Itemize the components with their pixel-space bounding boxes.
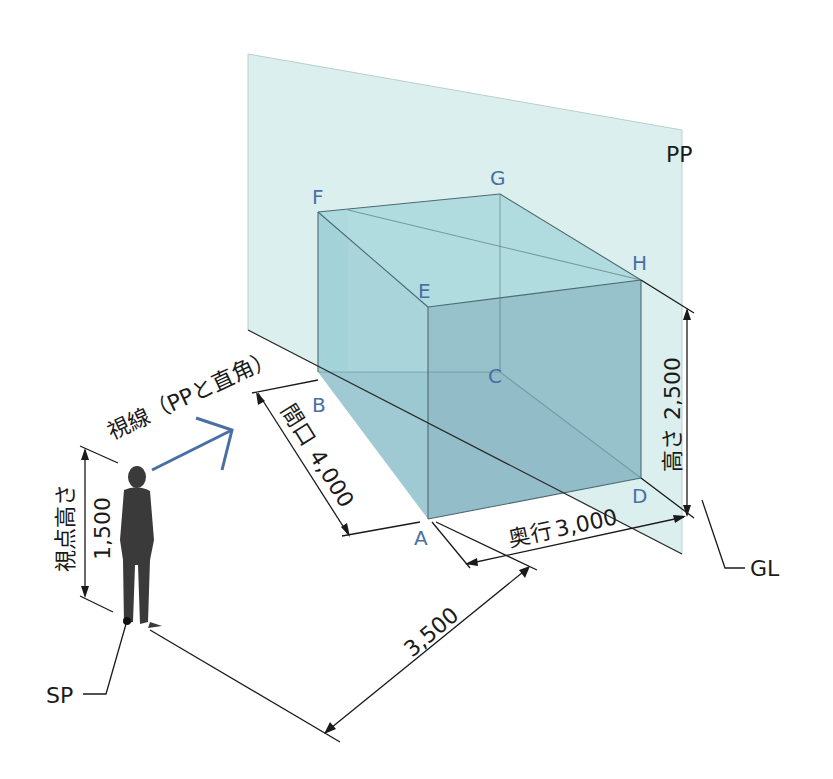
height-label: 高さ2,500 [660, 357, 685, 472]
vertex-b: B [312, 393, 326, 417]
vertex-g: G [490, 166, 506, 190]
picture-plane-label: PP [666, 142, 693, 167]
eye-height-value: 1,500 [90, 497, 115, 560]
distance-label: 3,500 [399, 602, 463, 662]
vertex-d: D [632, 484, 647, 508]
depth-label: 奥行3,000 [506, 504, 620, 552]
vertex-f: F [312, 185, 324, 209]
vertex-h: H [632, 251, 647, 275]
eye-height-label: 視点高さ [53, 484, 78, 572]
perspective-diagram: F G H E C B D A PP 高さ2,500 奥行3,000 [0, 0, 833, 779]
person-silhouette [120, 466, 162, 628]
ground-line-label: GL [750, 556, 780, 581]
vertex-c: C [488, 364, 502, 388]
eye-height-dimension: 視点高さ 1,500 [53, 446, 118, 612]
vertex-a: A [414, 526, 428, 550]
sight-line-label: 視線（PPと直角） [104, 346, 278, 445]
station-point [123, 617, 131, 625]
sight-line-arrow [152, 418, 232, 470]
vertex-e: E [418, 279, 431, 303]
station-point-label: SP [46, 683, 73, 708]
distance-dimension: 3,500 [150, 522, 537, 742]
